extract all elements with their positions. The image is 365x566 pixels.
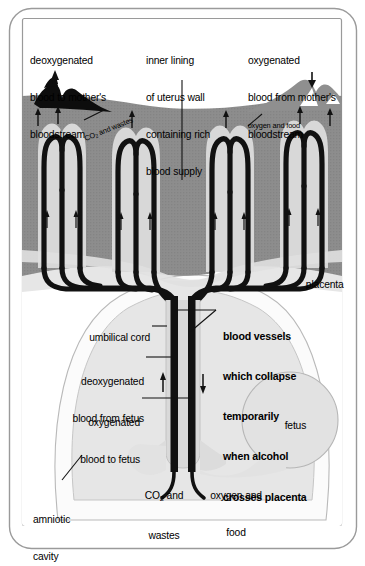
label-fetus: fetus [252,408,328,445]
label-oxygen-and-food-villi: oxygen and food [240,113,300,139]
label-inner-lining: inner lining of uterus wall containing r… [146,30,210,204]
label-amniotic-cavity: amniotic cavity [33,489,70,566]
cord-vessel-deoxygenated [171,296,179,472]
label-co2-and-wastes-bottom: CO2 and wastes [128,465,200,566]
label-oxygenated-to-fetus: oxygenated blood to fetus [20,392,140,491]
label-oxygenated-from-mother: oxygenated blood from mother's bloodstre… [248,30,336,166]
label-placenta: placenta [295,267,344,304]
cord-vessel-oxygenated [188,296,196,472]
label-oxygen-and-food-bottom: oxygen and food [196,465,276,564]
